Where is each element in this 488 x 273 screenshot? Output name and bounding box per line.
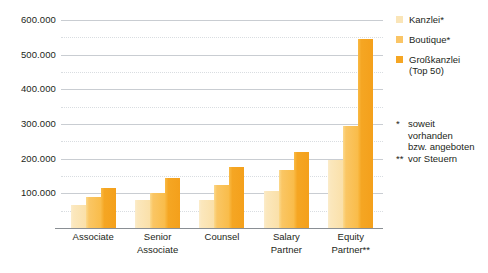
bar-counsel-boutique <box>214 185 229 228</box>
footnote-mark: ** <box>396 153 408 165</box>
footnote-double-asterisk: ** vor Steuern <box>396 153 488 165</box>
bar-senior-associate-kanzlei <box>135 200 150 228</box>
bar-salary-partner-boutique <box>279 170 294 228</box>
x-tick-line1: Counsel <box>191 230 253 243</box>
legend-item-boutique: Boutique* <box>396 34 488 45</box>
bar-counsel-kanzlei <box>199 200 214 228</box>
footnote-single-asterisk: * soweit vorhanden bzw. angeboten <box>396 118 488 153</box>
footnote-line2: vorhanden <box>408 130 488 142</box>
x-tick-label-salary-partner: Salary Partner <box>255 230 317 270</box>
bar-group-senior-associate <box>135 20 180 228</box>
y-tick-label: 300.000 <box>21 119 56 129</box>
plot-area <box>61 20 383 228</box>
bar-group-associate <box>71 20 116 228</box>
legend-label: Kanzlei* <box>409 14 444 25</box>
x-tick-line1: Associate <box>62 230 124 243</box>
x-tick-line2: Partner <box>255 243 317 256</box>
y-tick-label: 600.000 <box>21 15 56 25</box>
bar-associate-grosskanzlei <box>101 188 116 228</box>
y-tick-label: 100.000 <box>21 188 56 198</box>
bar-group-counsel <box>199 20 244 228</box>
y-tick-label: 500.000 <box>21 50 56 60</box>
footnote-line1: soweit <box>408 118 488 130</box>
legend-label: Boutique* <box>409 34 450 45</box>
bar-counsel-grosskanzlei <box>229 167 244 228</box>
x-tick-line2: Partner** <box>320 243 382 256</box>
bar-senior-associate-boutique <box>150 193 165 228</box>
y-axis-labels: 600.000 500.000 400.000 300.000 200.000 … <box>0 20 56 228</box>
x-tick-label-equity-partner: Equity Partner** <box>320 230 382 270</box>
bar-salary-partner-grosskanzlei <box>294 152 309 228</box>
bar-associate-kanzlei <box>71 205 86 228</box>
bar-chart: 600.000 500.000 400.000 300.000 200.000 … <box>0 0 488 273</box>
legend: Kanzlei* Boutique* Großkanzlei (Top 50) <box>396 14 488 85</box>
legend-label-sub: (Top 50) <box>409 65 460 76</box>
legend-label: Großkanzlei <box>409 54 460 65</box>
x-tick-label-counsel: Counsel <box>191 230 253 270</box>
bar-salary-partner-kanzlei <box>264 191 279 228</box>
x-tick-line2: Associate <box>127 243 189 256</box>
legend-item-kanzlei: Kanzlei* <box>396 14 488 25</box>
x-tick-label-senior-associate: Senior Associate <box>127 230 189 270</box>
bar-equity-partner-kanzlei <box>328 160 343 228</box>
legend-swatch-icon <box>396 16 403 23</box>
footnote-text: soweit vorhanden bzw. angeboten <box>408 118 488 153</box>
legend-label-group: Großkanzlei (Top 50) <box>409 54 460 76</box>
footnote-mark: * <box>396 118 408 153</box>
bar-group-equity-partner <box>328 20 373 228</box>
bar-group-salary-partner <box>264 20 309 228</box>
legend-swatch-icon <box>396 56 403 63</box>
x-axis-labels: Associate Senior Associate Counsel Salar… <box>61 230 383 270</box>
legend-item-grosskanzlei: Großkanzlei (Top 50) <box>396 54 488 76</box>
bar-associate-boutique <box>86 197 101 228</box>
x-tick-line1: Salary <box>255 230 317 243</box>
x-tick-line1: Equity <box>320 230 382 243</box>
footnotes: * soweit vorhanden bzw. angeboten ** vor… <box>396 118 488 164</box>
footnote-text: vor Steuern <box>408 153 488 165</box>
bar-groups <box>61 20 383 228</box>
x-tick-line1: Senior <box>127 230 189 243</box>
y-tick-label: 200.000 <box>21 154 56 164</box>
y-tick-label: 400.000 <box>21 84 56 94</box>
x-tick-label-associate: Associate <box>62 230 124 270</box>
legend-swatch-icon <box>396 36 403 43</box>
bar-equity-partner-boutique <box>343 126 358 228</box>
bar-equity-partner-grosskanzlei <box>358 39 373 228</box>
x-axis-line <box>55 228 383 229</box>
footnote-line3: bzw. angeboten <box>408 141 488 153</box>
bar-senior-associate-grosskanzlei <box>165 178 180 228</box>
